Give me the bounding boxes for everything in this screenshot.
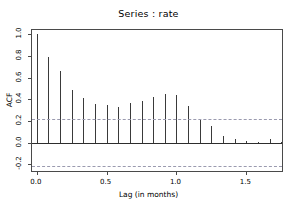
acf-spike: [107, 105, 108, 142]
acf-spike: [223, 136, 224, 143]
acf-spike: [165, 94, 166, 143]
acf-spike: [60, 71, 61, 143]
acf-spike: [188, 106, 189, 143]
y-axis-tick-label: 0.0: [15, 136, 23, 147]
y-axis-tick-label: 0.2: [15, 114, 23, 125]
y-axis-tick-label: 1.0: [15, 28, 23, 39]
confidence-band-lower: [32, 166, 282, 167]
y-axis-tick: [28, 121, 32, 122]
acf-spike: [48, 57, 49, 143]
acf-spike: [211, 126, 212, 143]
x-axis-tick: [37, 171, 38, 175]
acf-spike: [200, 119, 201, 142]
x-axis-title: Lag (in months): [0, 190, 297, 199]
acf-spike: [130, 103, 131, 143]
acf-spike: [95, 104, 96, 142]
x-axis-tick-label: 1.0: [170, 178, 181, 186]
x-axis-tick: [246, 171, 247, 175]
acf-spike: [142, 101, 143, 143]
y-axis-tick: [28, 164, 32, 165]
y-axis-tick-label: 0.6: [15, 71, 23, 82]
plot-inner: [32, 30, 282, 171]
plot-area: [31, 29, 283, 172]
acf-plot: Series : rate ACF 1.00.80.60.40.20.0-0.2…: [0, 0, 297, 208]
x-axis-tick-label: 0.5: [100, 178, 111, 186]
y-axis-tick: [28, 78, 32, 79]
confidence-band-upper: [32, 119, 282, 120]
y-axis-tick: [28, 34, 32, 35]
acf-spike: [37, 34, 38, 142]
y-axis-tick-label: -0.2: [15, 156, 23, 170]
acf-spike: [72, 90, 73, 143]
y-axis-tick: [28, 99, 32, 100]
x-axis-tick: [176, 171, 177, 175]
x-axis-tick-label: 0.0: [30, 178, 41, 186]
y-axis-title: ACF: [5, 93, 14, 108]
x-axis-tick: [107, 171, 108, 175]
x-axis-tick-label: 1.5: [240, 178, 251, 186]
y-axis-tick-label: 0.8: [15, 49, 23, 60]
zero-line: [32, 143, 282, 144]
chart-title: Series : rate: [0, 8, 297, 19]
y-axis-tick: [28, 56, 32, 57]
acf-spike: [83, 98, 84, 142]
y-axis-tick-label: 0.4: [15, 93, 23, 104]
y-axis-tick: [28, 143, 32, 144]
acf-spike: [118, 107, 119, 143]
